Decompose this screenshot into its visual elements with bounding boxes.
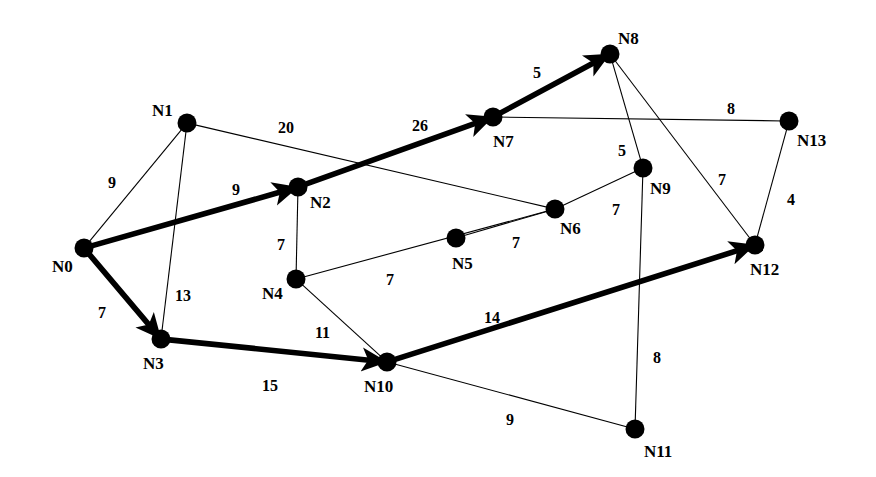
graph-svg [0,0,876,477]
edge-weight-n4-n10: 11 [315,325,330,341]
edge-weight-n5-n6: 7 [512,235,520,251]
node-label-n5: N5 [452,255,473,272]
node-n8[interactable] [601,45,620,64]
edge-weight-n8-n9: 5 [618,143,626,159]
edge-n4-n10 [300,282,384,358]
edge-n9-n11 [635,173,643,424]
edge-n7-n13 [498,117,784,121]
edge-n8-n12 [613,58,752,241]
edge-weight-n0-n3: 7 [98,305,106,321]
node-n10[interactable] [378,353,397,372]
edge-weight-n1-n3: 13 [175,288,191,304]
edge-weight-n8-n12: 7 [718,172,726,188]
edge-weight-n0-n2: 9 [232,182,240,198]
edge-n2-n4 [296,192,298,274]
node-label-n3: N3 [143,355,164,372]
node-n6[interactable] [546,200,565,219]
edge-n6-n9 [560,170,639,207]
edge-n2-n7 [304,121,481,185]
edge-weight-n7-n13: 8 [727,101,735,117]
node-label-n6: N6 [560,220,581,237]
node-label-n9: N9 [650,180,671,197]
edge-weight-n1-n6: 20 [278,120,294,136]
node-label-n0: N0 [52,258,73,275]
edge-weight-n7-n8: 5 [533,65,541,81]
edge-weight-n9-n11: 8 [653,350,661,366]
edge-weight-n10-n12: 14 [484,310,500,326]
node-label-n2: N2 [310,194,331,211]
node-label-n7: N7 [493,133,514,150]
node-n12[interactable] [746,236,765,255]
edge-n5-n6 [461,210,550,236]
edges-layer [87,58,787,428]
edge-weight-n0-n1: 9 [108,175,116,191]
edge-weight-n6-n9: 7 [612,202,620,218]
node-n2[interactable] [289,178,308,197]
node-label-n4: N4 [262,285,283,302]
node-label-n10: N10 [364,378,393,395]
node-label-n8: N8 [618,30,639,47]
node-n11[interactable] [626,420,645,439]
node-n9[interactable] [634,159,653,178]
node-label-n12: N12 [750,261,779,278]
edge-weight-n12-n13: 4 [787,192,795,208]
node-n13[interactable] [780,112,799,131]
edge-weight-n3-n10: 15 [262,378,278,394]
node-label-n13: N13 [797,132,826,149]
edge-n0-n2 [90,191,286,247]
edge-weight-n2-n7: 26 [412,118,428,134]
node-n7[interactable] [484,108,503,127]
edge-n12-n13 [756,126,787,240]
edge-n8-n9 [611,59,641,163]
node-n1[interactable] [178,114,197,133]
node-label-n1: N1 [152,102,173,119]
node-label-n11: N11 [644,443,672,460]
node-n5[interactable] [447,229,466,248]
edge-n3-n10 [167,340,374,361]
graph-canvas: 91320972675857777111514984N0N1N2N3N4N5N6… [0,0,876,477]
edge-n10-n12 [393,249,743,360]
node-n4[interactable] [287,270,306,289]
edge-weight-n4-n6: 7 [386,272,394,288]
node-n3[interactable] [152,330,171,349]
edge-weight-n10-n11: 9 [506,412,514,428]
edge-n7-n8 [498,60,598,114]
node-n0[interactable] [75,239,94,258]
edge-weight-n2-n4: 7 [277,237,285,253]
